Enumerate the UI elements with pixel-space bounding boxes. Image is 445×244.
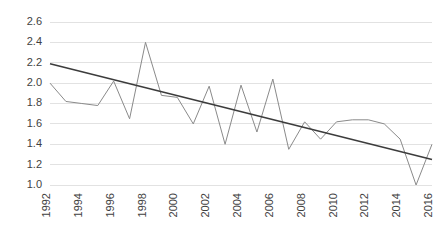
y-tick-label: 1.6	[27, 117, 42, 129]
gridlines	[50, 22, 432, 185]
data-series-line	[50, 42, 432, 185]
y-axis-tick-labels: 1.01.21.41.61.82.02.22.42.6	[27, 15, 42, 190]
x-tick-label: 2010	[327, 193, 339, 217]
x-tick-label: 2008	[295, 193, 307, 217]
y-tick-label: 2.0	[27, 76, 42, 88]
x-tick-label: 2004	[231, 193, 243, 217]
y-tick-label: 1.0	[27, 178, 42, 190]
y-tick-label: 1.4	[27, 137, 42, 149]
x-tick-label: 2014	[390, 193, 402, 217]
trendline	[50, 64, 432, 160]
y-tick-label: 2.2	[27, 56, 42, 68]
y-tick-label: 2.6	[27, 15, 42, 27]
x-tick-label: 2000	[167, 193, 179, 217]
x-tick-label: 2002	[199, 193, 211, 217]
x-tick-label: 1996	[104, 193, 116, 217]
y-tick-label: 1.8	[27, 96, 42, 108]
line-chart: 1.01.21.41.61.82.02.22.42.6 199219941996…	[0, 0, 445, 244]
x-axis-tick-labels: 1992199419961998200020022004200620082010…	[40, 193, 434, 217]
x-tick-label: 2012	[358, 193, 370, 217]
y-tick-label: 1.2	[27, 158, 42, 170]
x-tick-label: 2016	[422, 193, 434, 217]
x-tick-label: 1994	[72, 193, 84, 217]
x-tick-label: 1998	[136, 193, 148, 217]
x-tick-label: 2006	[263, 193, 275, 217]
chart-canvas: 1.01.21.41.61.82.02.22.42.6 199219941996…	[0, 0, 445, 244]
y-tick-label: 2.4	[27, 35, 42, 47]
x-tick-label: 1992	[40, 193, 52, 217]
